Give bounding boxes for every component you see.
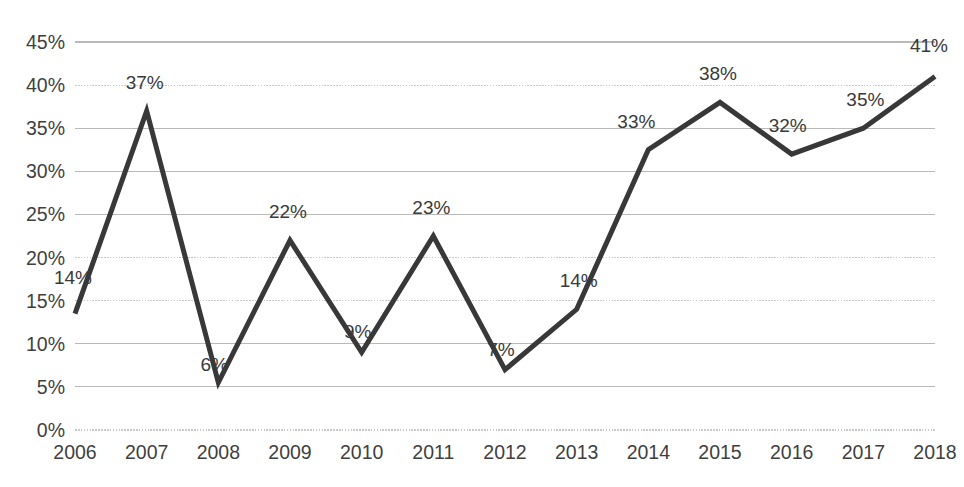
y-axis-tick-label: 5% (37, 376, 65, 398)
data-point-label: 38% (699, 63, 737, 84)
x-axis-tick-label: 2013 (555, 441, 598, 463)
data-point-label: 35% (846, 89, 884, 110)
x-axis-tick-label: 2010 (340, 441, 384, 463)
data-point-label: 32% (769, 115, 807, 136)
x-axis-tick-label: 2014 (627, 441, 671, 463)
data-point-label: 23% (412, 197, 450, 218)
data-point-label: 6% (201, 354, 229, 375)
y-axis-tick-label: 40% (26, 74, 65, 96)
line-chart: 0%5%10%15%20%25%30%35%40%45% 20062007200… (0, 0, 964, 487)
x-axis-tick-label: 2009 (268, 441, 311, 463)
y-axis-tick-label: 35% (26, 117, 65, 139)
y-axis-tick-label: 20% (26, 247, 65, 269)
data-point-label: 33% (617, 111, 655, 132)
y-axis-tick-label: 15% (26, 290, 65, 312)
data-point-label: 22% (269, 201, 307, 222)
x-axis-tick-label: 2007 (125, 441, 168, 463)
y-axis-tick-label: 25% (26, 203, 65, 225)
y-axis-tick-label: 0% (37, 419, 65, 441)
x-axis-tick-label: 2011 (412, 441, 454, 463)
data-point-label: 7% (487, 339, 515, 360)
data-point-label: 14% (54, 267, 92, 288)
y-axis-tick-label: 10% (26, 333, 65, 355)
x-axis-tick-label: 2018 (913, 441, 956, 463)
data-point-label: 9% (344, 321, 372, 342)
x-axis-tick-label: 2006 (53, 441, 96, 463)
x-axis-tick-label: 2016 (770, 441, 813, 463)
data-point-label: 14% (560, 270, 598, 291)
data-point-label: 41% (910, 35, 948, 56)
y-axis-tick-label: 45% (26, 31, 65, 53)
x-axis-tick-label: 2017 (842, 441, 885, 463)
x-axis-tick-label: 2015 (698, 441, 742, 463)
data-point-label: 37% (126, 72, 164, 93)
y-axis-tick-label: 30% (26, 160, 65, 182)
x-axis-tick-label: 2012 (483, 441, 526, 463)
chart-canvas: 0%5%10%15%20%25%30%35%40%45% 20062007200… (0, 0, 964, 487)
x-axis-tick-label: 2008 (197, 441, 240, 463)
